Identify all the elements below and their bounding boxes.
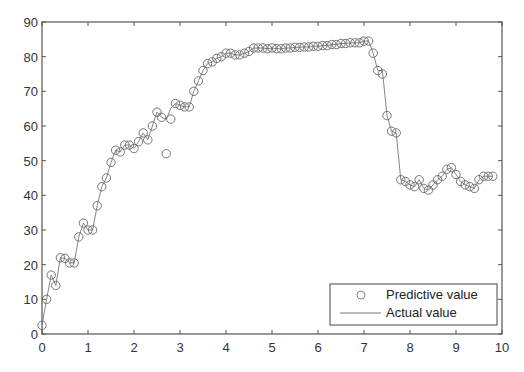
legend-label-actual: Actual value [386,305,457,320]
y-tick-label: 80 [24,50,38,65]
y-tick-label: 30 [24,223,38,238]
y-tick-label: 50 [24,154,38,169]
y-tick-label: 40 [24,188,38,203]
x-tick-label: 1 [84,340,91,355]
x-tick-label: 9 [452,340,459,355]
x-tick-label: 2 [130,340,137,355]
x-tick-label: 6 [314,340,321,355]
x-tick-label: 8 [406,340,413,355]
x-tick-label: 4 [222,340,229,355]
x-tick-label: 5 [268,340,275,355]
x-tick-label: 0 [38,340,45,355]
y-tick-label: 0 [31,327,38,342]
legend-label-predictive: Predictive value [386,287,478,302]
chart: 012345678910 0102030405060708090 Predict… [0,0,524,372]
x-tick-label: 7 [360,340,367,355]
y-tick-label: 60 [24,119,38,134]
y-tick-label: 70 [24,84,38,99]
x-tick-label: 10 [495,340,509,355]
x-tick-label: 3 [176,340,183,355]
y-tick-label: 10 [24,292,38,307]
y-tick-label: 90 [24,15,38,30]
y-tick-label: 20 [24,258,38,273]
legend: Predictive value Actual value [330,284,497,325]
